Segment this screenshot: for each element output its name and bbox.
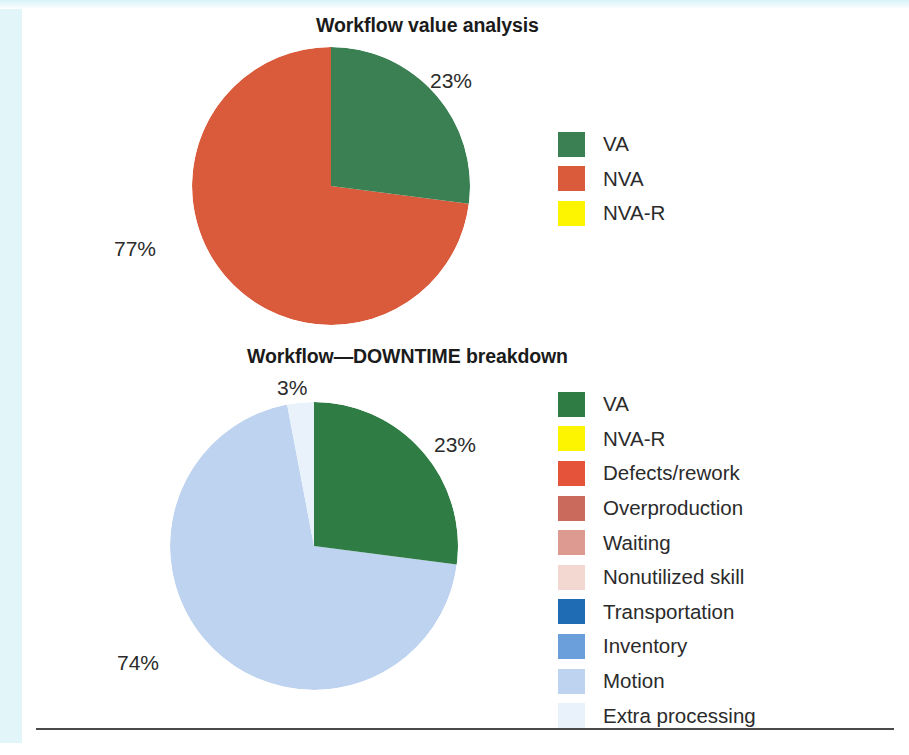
legend-label-extra-processing: Extra processing (603, 704, 756, 728)
legend-swatch-nva-r-icon (558, 201, 585, 226)
legend-label-overproduction: Overproduction (603, 496, 743, 520)
legend-swatch-extra-processing-icon (558, 703, 585, 728)
legend-label-waiting: Waiting (603, 531, 671, 555)
legend-label-va: VA (603, 392, 629, 416)
legend-item-va[interactable]: VA (558, 127, 665, 162)
legend-swatch-nva-icon (558, 166, 585, 191)
pie-label-extra-processing-percent: 3% (277, 376, 307, 400)
legend-item-nva-r[interactable]: NVA-R (558, 196, 665, 231)
chart-title-value-analysis: Workflow value analysis (0, 14, 871, 37)
legend-label-defects-rework: Defects/rework (603, 461, 740, 485)
legend-swatch-inventory-icon (558, 634, 585, 659)
legend-item-defects-rework[interactable]: Defects/rework (558, 456, 756, 491)
legend-label-va: VA (603, 132, 629, 156)
legend-swatch-waiting-icon (558, 530, 585, 555)
legend-item-waiting[interactable]: Waiting (558, 525, 756, 560)
figure-workflow-value-analysis: Workflow value analysis 23% 77% VA NVA (22, 9, 909, 339)
legend-swatch-va-icon (558, 132, 585, 157)
legend-label-nonutilized-skill: Nonutilized skill (603, 565, 744, 589)
legend-label-motion: Motion (603, 669, 665, 693)
legend-item-nva-r[interactable]: NVA-R (558, 422, 756, 457)
pie-chart-downtime-breakdown (170, 402, 458, 690)
pie-label-va-percent: 23% (434, 433, 476, 457)
legend-item-nva[interactable]: NVA (558, 162, 665, 197)
chart-title-downtime-breakdown: Workflow—DOWNTIME breakdown (0, 345, 851, 368)
legend-item-transportation[interactable]: Transportation (558, 595, 756, 630)
pie-slice-va[interactable] (314, 402, 458, 564)
legend-swatch-nonutilized-skill-icon (558, 565, 585, 590)
legend-item-inventory[interactable]: Inventory (558, 629, 756, 664)
legend-item-motion[interactable]: Motion (558, 664, 756, 699)
pie-label-nva-percent: 77% (114, 237, 156, 261)
pie-svg-downtime-breakdown (170, 402, 458, 690)
legend-item-nonutilized-skill[interactable]: Nonutilized skill (558, 560, 756, 595)
legend-swatch-overproduction-icon (558, 496, 585, 521)
pie-label-motion-percent: 74% (117, 651, 159, 675)
legend-label-nva: NVA (603, 167, 644, 191)
legend-value-analysis: VA NVA NVA-R (558, 127, 665, 231)
legend-label-nva-r: NVA-R (603, 427, 665, 451)
legend-swatch-va-icon (558, 392, 585, 417)
legend-swatch-nva-r-icon (558, 426, 585, 451)
legend-label-transportation: Transportation (603, 600, 734, 624)
legend-item-va[interactable]: VA (558, 387, 756, 422)
legend-label-nva-r: NVA-R (603, 201, 665, 225)
figure-sheet: Workflow value analysis 23% 77% VA NVA (22, 9, 909, 749)
legend-label-inventory: Inventory (603, 634, 687, 658)
figure-workflow-downtime-breakdown: Workflow—DOWNTIME breakdown 3% 23% 74% V… (22, 339, 909, 719)
footer-divider (36, 728, 894, 730)
pie-svg-value-analysis (192, 47, 470, 325)
pie-chart-value-analysis (192, 47, 470, 325)
legend-item-overproduction[interactable]: Overproduction (558, 491, 756, 526)
page-edge-top (0, 0, 909, 9)
legend-swatch-transportation-icon (558, 599, 585, 624)
legend-downtime-breakdown: VA NVA-R Defects/rework Overproduction W… (558, 387, 756, 733)
pie-label-va-percent: 23% (430, 69, 472, 93)
page-edge-left (0, 0, 22, 755)
legend-swatch-motion-icon (558, 669, 585, 694)
legend-swatch-defects-rework-icon (558, 461, 585, 486)
